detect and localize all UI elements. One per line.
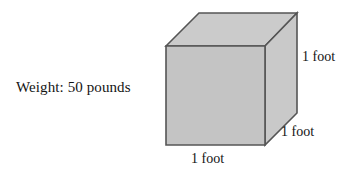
- weight-label: Weight: 50 pounds: [16, 80, 131, 95]
- height-dimension-label: 1 foot: [302, 50, 335, 64]
- cube-figure-page: Weight: 50 pounds 1 foot 1 foot 1 foot: [0, 0, 359, 173]
- width-dimension-label: 1 foot: [191, 152, 224, 166]
- cube-front-face: [166, 46, 265, 145]
- depth-dimension-label: 1 foot: [281, 125, 314, 139]
